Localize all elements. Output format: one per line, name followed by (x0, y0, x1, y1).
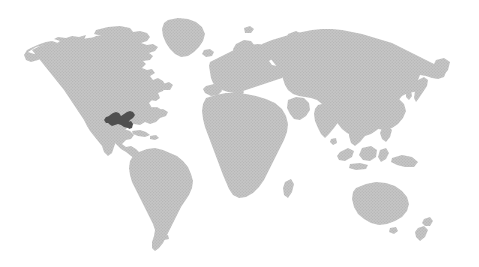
world-map-svg (0, 0, 479, 267)
world-map-container: equirectangular Southeastern United Stat… (0, 0, 479, 267)
